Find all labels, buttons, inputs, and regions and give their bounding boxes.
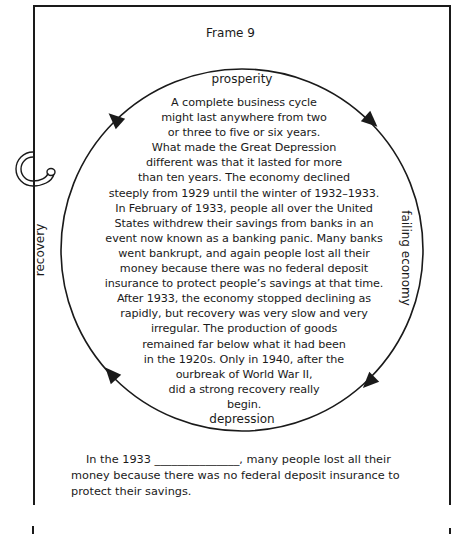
next-frame-border-right	[449, 528, 451, 534]
passage-line: irregular. The production of goods	[62, 321, 426, 336]
answer-blank[interactable]: _______________	[155, 453, 240, 466]
binder-ring-icon	[16, 152, 55, 186]
passage-line: After 1933, the economy stopped declinin…	[62, 291, 426, 306]
cycle-label-depression: depression	[0, 412, 461, 426]
passage-line: In February of 1933, people all over the…	[62, 201, 426, 216]
passage-line: begin.	[62, 397, 426, 412]
fill-in-question: In the 1933 _______________, many people…	[71, 452, 421, 500]
passage-line: insurance to protect people’s savings at…	[62, 276, 426, 291]
passage-line: event now known as a banking panic. Many…	[62, 231, 426, 246]
passage-line: might last anywhere from two	[62, 110, 426, 125]
cycle-label-prosperity: prosperity	[0, 72, 461, 86]
passage-line: A complete business cycle	[62, 95, 426, 110]
cycle-label-recovery: recovery	[33, 224, 47, 277]
passage-line: money because there was no federal depos…	[62, 261, 426, 276]
passage-text: A complete business cycle might last any…	[62, 95, 426, 412]
passage-line: steeply from 1929 until the winter of 19…	[62, 186, 426, 201]
passage-line: different was that it lasted for more	[62, 155, 426, 170]
passage-line: than ten years. The economy declined	[62, 170, 426, 185]
passage-line: in the 1920s. Only in 1940, after the	[62, 352, 426, 367]
question-text-before: In the 1933	[86, 453, 155, 466]
passage-line: States withdrew their savings from banks…	[62, 216, 426, 231]
passage-line: or three to five or six years.	[62, 125, 426, 140]
passage-line: went bankrupt, and again people lost all…	[62, 246, 426, 261]
next-frame-border-left	[32, 526, 34, 534]
passage-line: What made the Great Depression	[62, 140, 426, 155]
passage-line: did a strong recovery really	[62, 382, 426, 397]
passage-line: rapidly, but recovery was very slow and …	[62, 306, 426, 321]
passage-line: remained far below what it had been	[62, 337, 426, 352]
passage-line: ourbreak of World War II,	[62, 367, 426, 382]
